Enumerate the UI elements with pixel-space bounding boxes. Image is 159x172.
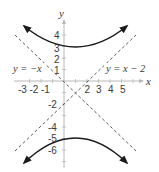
svg-text:1: 1 [54,65,60,76]
svg-text:-6: -6 [48,145,57,156]
asymptote-label-neg-x: y = −x [12,63,42,74]
x-axis-label: x [145,75,151,87]
svg-text:-1: -1 [41,84,50,95]
svg-text:-4: -4 [48,122,57,133]
hyperbola-graph: y x -3 -2 -1 2 3 4 5 4 3 2 1 -2 -4 -5 -6… [0,0,159,172]
svg-text:3: 3 [96,84,102,95]
svg-text:3: 3 [54,43,60,54]
svg-text:4: 4 [108,84,114,95]
svg-text:5: 5 [120,84,126,95]
svg-text:-5: -5 [48,133,57,144]
svg-text:-2: -2 [30,84,39,95]
svg-text:-3: -3 [18,84,27,95]
asymptote-label-x-minus-2: y = x − 2 [105,63,146,74]
y-axis-label: y [58,7,64,19]
svg-text:2: 2 [85,84,91,95]
lower-branch [24,138,127,163]
svg-text:-2: -2 [48,99,57,110]
svg-text:2: 2 [54,54,60,65]
svg-text:4: 4 [54,30,60,41]
upper-branch [24,26,127,47]
